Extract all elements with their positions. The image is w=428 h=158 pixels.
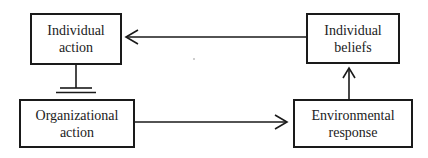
node-label-line1: Individual — [47, 22, 105, 39]
node-individual-beliefs: Individual beliefs — [306, 13, 400, 64]
node-label-line2: action — [60, 124, 94, 141]
print-speck — [193, 58, 194, 59]
node-label-line1: Individual — [324, 22, 382, 39]
diagram-canvas: Individual action Individual beliefs Org… — [0, 0, 428, 158]
node-individual-action: Individual action — [30, 13, 122, 65]
node-organizational-action: Organizational action — [19, 99, 135, 148]
node-environmental-response: Environmental response — [293, 99, 413, 148]
node-label-line1: Environmental — [311, 107, 394, 124]
node-label-line1: Organizational — [36, 107, 119, 124]
node-label-line2: action — [59, 39, 93, 56]
arrow-organizational-to-environmental — [135, 115, 287, 129]
blocked-link-individual-to-organizational — [56, 65, 96, 93]
arrow-beliefs-to-individual-action — [126, 30, 306, 44]
node-label-line2: beliefs — [334, 39, 371, 56]
arrow-environmental-to-beliefs — [343, 68, 355, 99]
node-label-line2: response — [329, 124, 378, 141]
